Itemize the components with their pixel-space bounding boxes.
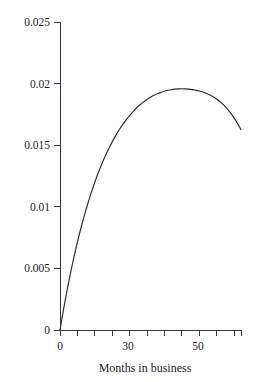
y-tick-label-0.01: 0.01 bbox=[30, 201, 50, 213]
chart-canvas: 0.025 0.02 0.015 0.01 0.005 0 0 30 50 bbox=[0, 0, 260, 382]
y-tick-label-0.005: 0.005 bbox=[24, 262, 50, 274]
x-tick-label-0: 0 bbox=[57, 340, 63, 352]
y-axis-group: 0.025 0.02 0.015 0.01 0.005 0 bbox=[24, 16, 60, 336]
data-curve-line bbox=[60, 89, 241, 330]
chart-figure: 0.025 0.02 0.015 0.01 0.005 0 0 30 50 bbox=[0, 0, 260, 382]
y-tick-label-0.02: 0.02 bbox=[30, 78, 50, 90]
x-axis-group: 0 30 50 bbox=[57, 330, 241, 352]
x-axis-title: Months in business bbox=[99, 361, 192, 375]
x-tick-label-30: 30 bbox=[122, 340, 134, 352]
y-tick-label-0: 0 bbox=[44, 324, 50, 336]
y-tick-label-0.015: 0.015 bbox=[24, 139, 50, 151]
x-tick-label-50: 50 bbox=[192, 340, 204, 352]
y-tick-label-0.025: 0.025 bbox=[24, 16, 50, 28]
